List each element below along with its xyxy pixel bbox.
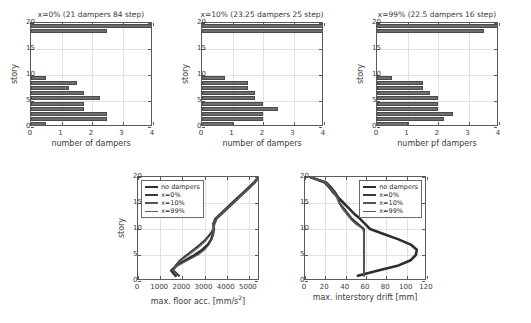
y-tick (494, 127, 497, 128)
x-tick (205, 276, 206, 279)
x-tick (227, 177, 228, 180)
axes-max-interstory-drift: no dampersx=0%x=10%x=99% (304, 176, 426, 280)
grid-line-horizontal (377, 75, 497, 76)
y-tick (202, 101, 205, 102)
legend-item[interactable]: x=0% (145, 191, 200, 199)
legend-item[interactable]: no dampers (363, 183, 418, 191)
x-tick (469, 23, 470, 26)
grid-line-horizontal (202, 49, 322, 50)
legend-item[interactable]: x=99% (363, 207, 418, 215)
grid-line-vertical (92, 23, 93, 125)
grid-line-vertical (469, 23, 470, 125)
legend-item[interactable]: x=99% (145, 207, 200, 215)
y-tick (377, 101, 380, 102)
y-tick (494, 75, 497, 76)
x-tick (233, 122, 234, 125)
y-tick (377, 127, 380, 128)
x-tick-label: 80 (381, 283, 390, 291)
bar-story-6 (202, 96, 255, 100)
bar-story-3 (31, 112, 107, 116)
axes-dampers-x0 (30, 22, 152, 126)
legend-swatch-3 (363, 211, 376, 212)
y-tick (494, 101, 497, 102)
y-tick (31, 101, 34, 102)
y-tick (148, 101, 151, 102)
y-tick (305, 255, 308, 256)
plot-area-dampers-x10 (202, 23, 322, 125)
x-tick (427, 177, 428, 180)
x-tick (249, 276, 250, 279)
bar-story-19 (202, 29, 322, 33)
x-tick (438, 23, 439, 26)
bar-story-19 (31, 29, 107, 33)
x-tick-label: 2 (260, 129, 264, 137)
grid-line-vertical (438, 23, 439, 125)
x-tick (499, 122, 500, 125)
bar-story-4 (31, 107, 84, 111)
bar-story-9 (31, 81, 77, 85)
grid-line-horizontal (31, 49, 151, 50)
x-tick (202, 122, 203, 125)
bar-story-8 (31, 86, 69, 90)
y-tick (422, 281, 425, 282)
x-tick (153, 23, 154, 26)
x-tick-label: 3 (465, 129, 469, 137)
x-tick-label: 1 (229, 129, 233, 137)
bar-story-7 (377, 91, 430, 95)
x-tick (123, 23, 124, 26)
axes-max-floor-acc: no dampersx=0%x=10%x=99% (137, 176, 259, 280)
x-tick (249, 177, 250, 180)
axes-dampers-x10 (201, 22, 323, 126)
legend-max-floor-acc: no dampersx=0%x=10%x=99% (141, 180, 204, 218)
x-tick-label: 100 (399, 283, 412, 291)
x-tick (205, 177, 206, 180)
x-tick (366, 276, 367, 279)
x-tick-label: 3000 (195, 283, 213, 291)
x-tick (62, 23, 63, 26)
x-tick (227, 276, 228, 279)
bar-story-6 (377, 96, 438, 100)
legend-item[interactable]: x=10% (145, 199, 200, 207)
x-tick-label: 20 (320, 283, 329, 291)
x-tick-label: 2000 (172, 283, 190, 291)
y-tick (148, 49, 151, 50)
x-tick (92, 122, 93, 125)
legend-label: x=10% (161, 199, 185, 207)
bar-story-8 (202, 86, 248, 90)
x-tick (386, 276, 387, 279)
x-tick-label: 0 (302, 283, 306, 291)
x-tick-label: 60 (361, 283, 370, 291)
y-tick (422, 203, 425, 204)
legend-item[interactable]: x=0% (363, 191, 418, 199)
y-tick (138, 255, 141, 256)
x-axis-label-dampers-x10: number of dampers (222, 139, 301, 149)
legend-item[interactable]: x=10% (363, 199, 418, 207)
y-tick (255, 203, 258, 204)
grid-line-horizontal (377, 49, 497, 50)
x-tick-label: 3 (290, 129, 294, 137)
x-tick-label: 1 (404, 129, 408, 137)
x-tick (408, 122, 409, 125)
y-tick (255, 281, 258, 282)
chart-title-dampers-x0: x=0% (21 dampers 84 step) (38, 10, 144, 19)
x-tick-label: 2 (435, 129, 439, 137)
x-tick (182, 276, 183, 279)
bar-story-3 (202, 112, 263, 116)
legend-label: x=10% (379, 199, 403, 207)
bar-story-20 (377, 24, 497, 28)
x-tick-label: 1 (58, 129, 62, 137)
legend-swatch-1 (145, 194, 158, 196)
legend-swatch-2 (363, 202, 376, 203)
axes-dampers-x99 (376, 22, 498, 126)
y-axis-label-dampers-x10: story (181, 64, 191, 84)
legend-label: no dampers (379, 183, 418, 191)
x-tick-label: 0 (135, 283, 139, 291)
chart-title-dampers-x10: x=10% (23.25 dampers 25 step) (200, 10, 323, 19)
legend-label: no dampers (161, 183, 200, 191)
legend-item[interactable]: no dampers (145, 183, 200, 191)
x-tick (160, 276, 161, 279)
x-tick (408, 23, 409, 26)
x-tick-label: 5000 (239, 283, 257, 291)
x-tick-label: 0 (28, 129, 32, 137)
x-tick (31, 122, 32, 125)
